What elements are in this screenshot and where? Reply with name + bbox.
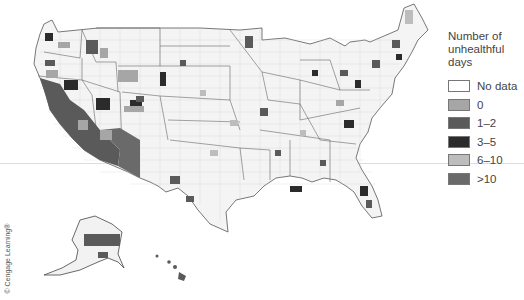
legend-item-6-10: 6–10 — [448, 151, 524, 170]
legend-title-line: unhealthful — [448, 43, 524, 56]
legend-item-0: 0 — [448, 96, 524, 115]
legend-label: 0 — [477, 99, 483, 111]
legend-item-no-data: No data — [448, 77, 524, 96]
legend-label: 1–2 — [477, 117, 496, 129]
swatch-over-10 — [448, 173, 470, 185]
swatch-no-data — [448, 80, 470, 92]
alaska-patch — [84, 234, 120, 246]
legend: Number of unhealthful days No data 0 1–2… — [448, 30, 524, 188]
hawaii-inset — [156, 255, 187, 282]
legend-label: 6–10 — [477, 154, 503, 166]
copyright-credit: © Cengage Learning® — [4, 224, 11, 294]
legend-title: Number of unhealthful days — [448, 30, 524, 69]
legend-label: 3–5 — [477, 136, 496, 148]
legend-label: No data — [477, 80, 517, 92]
legend-item-over-10: >10 — [448, 170, 524, 189]
swatch-6-10 — [448, 154, 470, 166]
legend-item-3-5: 3–5 — [448, 133, 524, 152]
swatch-0 — [448, 99, 470, 111]
us-county-map — [0, 0, 524, 300]
legend-title-line: days — [448, 56, 524, 69]
legend-item-1-2: 1–2 — [448, 114, 524, 133]
legend-title-line: Number of — [448, 30, 524, 43]
alaska-patch — [98, 252, 108, 258]
contiguous-us-shape — [34, 4, 428, 232]
swatch-1-2 — [448, 117, 470, 129]
legend-label: >10 — [477, 173, 497, 185]
swatch-3-5 — [448, 136, 470, 148]
